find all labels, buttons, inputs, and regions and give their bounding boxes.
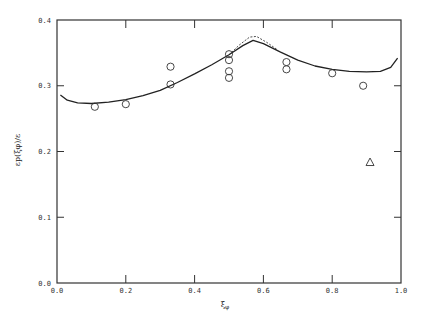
y-tick-label: 0.4 [38,17,51,25]
y-axis-label: εp(ξφ)/ε [13,134,22,166]
circle-marker [91,103,98,110]
x-axis-label: ξφ [221,300,230,311]
circle-marker [167,63,174,70]
circle-marker [329,70,336,77]
triangle-marker [366,158,374,166]
data-series [60,36,397,165]
circle-marker [225,74,232,81]
x-tick-label: 0.2 [119,287,132,295]
axis-ticks [57,20,401,283]
x-tick-label: 0.8 [326,287,339,295]
y-tick-label: 0.2 [38,148,51,156]
circle-marker [283,58,290,65]
circle-marker [283,66,290,73]
y-tick-label: 0.1 [38,214,51,222]
circle-marker [122,101,129,108]
model-curve-solid [60,40,397,103]
model-curve-dashed [229,36,277,54]
y-tick-label: 0.0 [38,280,51,288]
circle-marker [360,82,367,89]
plot-frame [57,20,401,283]
x-tick-label: 0.4 [188,287,201,295]
circle-marker [225,68,232,75]
y-tick-label: 0.3 [38,82,51,90]
x-tick-label: 1.0 [395,287,408,295]
chart: 0.00.20.40.60.81.00.00.10.20.30.4 ξφ εp(… [0,0,427,328]
x-tick-label: 0.6 [257,287,270,295]
x-tick-label: 0.0 [51,287,64,295]
